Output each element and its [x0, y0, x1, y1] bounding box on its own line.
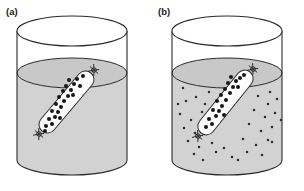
bag-solute-dot [222, 113, 226, 117]
diffused-solute-dot [257, 95, 260, 98]
bag-solute-dot [215, 99, 219, 103]
bag-solute-dot [71, 93, 75, 97]
bag-solute-dot [66, 94, 70, 98]
diffused-solute-dot [267, 103, 270, 106]
diffused-solute-dot [246, 151, 249, 154]
diffused-solute-dot [179, 113, 182, 116]
dialysis-figure: (a) (b) [0, 0, 304, 191]
bag-solute-dot [242, 73, 246, 77]
bag-solute-dot [61, 89, 65, 93]
bag-solute-dot [50, 122, 54, 126]
bag-solute-dot [238, 76, 242, 80]
diffused-solute-dot [211, 142, 214, 145]
bag-solute-dot [210, 122, 214, 126]
diffused-solute-dot [271, 126, 274, 129]
bag-solute-dot [234, 79, 238, 83]
bag-solute-dot [69, 88, 73, 92]
diffused-solute-dot [185, 100, 188, 103]
bag-solute-dot [204, 125, 208, 129]
bag-solute-dot [217, 109, 221, 113]
panel-b [172, 16, 282, 175]
diffused-solute-dot [242, 138, 245, 141]
diffused-solute-dot [260, 130, 263, 133]
bag-solute-dot [44, 124, 48, 128]
panel-label-a: (a) [6, 6, 18, 17]
diffused-solute-dot [201, 111, 204, 114]
diffused-solute-dot [190, 119, 193, 122]
bag-solute-dot [54, 102, 58, 106]
diffused-solute-dot [182, 87, 185, 90]
diffused-solute-dot [183, 127, 186, 130]
dialysis-figure-svg: (a) (b) [0, 0, 304, 191]
bag-solute-dot [53, 115, 57, 119]
diffused-solute-dot [264, 116, 267, 119]
diffused-solute-dot [255, 144, 258, 147]
diffused-solute-dot [269, 91, 272, 94]
diffused-solute-dot [274, 112, 277, 115]
diffused-solute-dot [198, 146, 201, 149]
bag-solute-dot [75, 77, 79, 81]
diffused-solute-dot [215, 151, 218, 154]
bag-solute-dot [57, 95, 61, 99]
bag-solute-dot [43, 129, 47, 133]
bag-solute-dot [229, 75, 233, 79]
bag-solute-dot [58, 116, 62, 120]
diffused-solute-dot [253, 109, 256, 112]
panel-label-b: (b) [158, 6, 170, 17]
bag-solute-dot [56, 110, 60, 114]
bag-solute-dot [62, 99, 66, 103]
bag-solute-dot [219, 93, 223, 97]
bag-solute-dot [50, 109, 54, 113]
bag-solute-dot [214, 114, 218, 118]
panel-a [17, 16, 127, 175]
diffused-solute-dot [187, 140, 190, 143]
diffused-solute-dot [248, 123, 251, 126]
diffused-solute-dot [193, 153, 196, 156]
bag-solute-dot [220, 104, 224, 108]
bag-solute-dot [72, 82, 76, 86]
bag-solute-dot [59, 105, 63, 109]
bag-solute-dot [226, 81, 230, 85]
bag-solute-dot [231, 85, 235, 89]
diffused-solute-dot [231, 156, 234, 159]
diffused-solute-dot [195, 96, 198, 99]
bag-solute-dot [224, 98, 228, 102]
bag-solute-dot [223, 87, 227, 91]
diffused-solute-dot [276, 98, 279, 101]
bag-solute-dot [47, 117, 51, 121]
diffused-solute-dot [271, 141, 274, 144]
diffused-solute-dot [202, 159, 205, 162]
bag-solute-dot [64, 84, 68, 88]
bag-solute-dot [228, 91, 232, 95]
bag-solute-dot [67, 78, 71, 82]
bag-solute-dot [236, 85, 240, 89]
beaker-rim [172, 16, 282, 46]
diffused-solute-dot [237, 159, 240, 162]
diffused-solute-dot [261, 154, 264, 157]
bag-solute-dot [81, 74, 85, 78]
diffused-solute-dot [223, 147, 226, 150]
diffused-solute-dot [177, 103, 180, 106]
diffused-solute-dot [204, 103, 207, 106]
bag-solute-dot [207, 117, 211, 121]
bag-solute-dot [211, 108, 215, 112]
diffused-solute-dot [267, 139, 270, 142]
diffused-solute-dot [208, 91, 211, 94]
beaker-rim [17, 16, 127, 46]
bag-solute-dot [78, 84, 82, 88]
